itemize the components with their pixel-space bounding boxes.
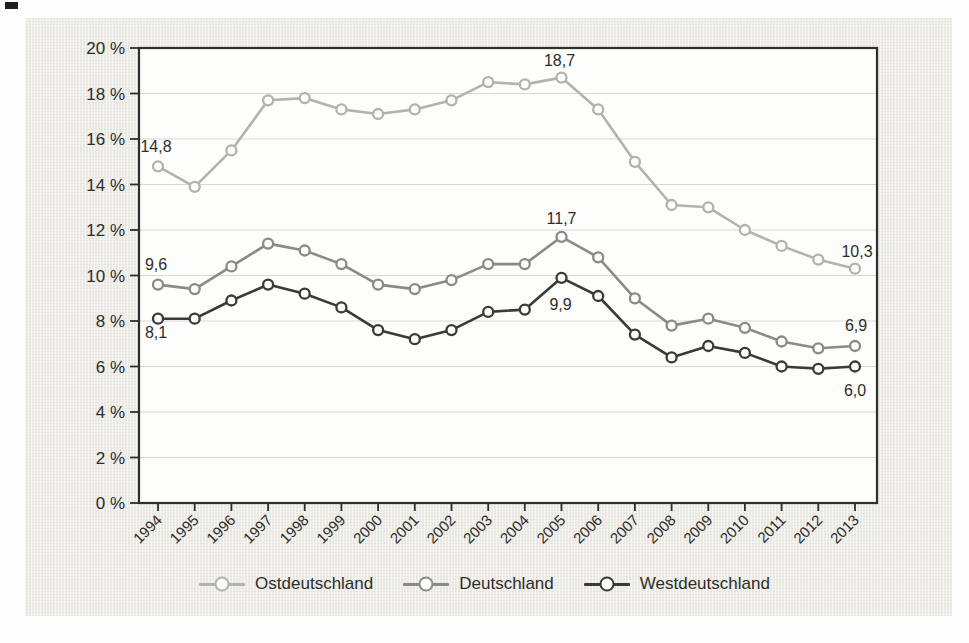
legend-circle-marker-icon (599, 577, 614, 592)
y-tick-label: 12 % (86, 221, 125, 240)
data-point-marker-icon (667, 321, 677, 331)
y-tick-label: 20 % (86, 39, 125, 58)
value-label: 8,1 (145, 324, 167, 341)
legend-label: Ostdeutschland (255, 574, 373, 594)
data-point-marker-icon (300, 93, 310, 103)
value-label: 9,6 (145, 256, 167, 273)
value-label: 11,7 (547, 210, 577, 227)
legend-line-icon (199, 583, 245, 586)
y-tick-label: 4 % (96, 403, 125, 422)
data-point-marker-icon (373, 325, 383, 335)
legend-circle-marker-icon (419, 577, 434, 592)
data-point-marker-icon (630, 293, 640, 303)
legend-line-icon (403, 583, 449, 586)
data-point-marker-icon (190, 284, 200, 294)
data-point-marker-icon (813, 343, 823, 353)
data-point-marker-icon (226, 261, 236, 271)
x-tick-label: 1995 (166, 511, 202, 547)
data-point-marker-icon (777, 241, 787, 251)
data-point-marker-icon (740, 225, 750, 235)
data-point-marker-icon (153, 280, 163, 290)
data-point-marker-icon (226, 145, 236, 155)
data-point-marker-icon (410, 334, 420, 344)
x-tick-label: 2001 (386, 511, 422, 547)
data-point-marker-icon (410, 284, 420, 294)
data-point-marker-icon (557, 273, 567, 283)
y-tick-label: 2 % (96, 449, 125, 468)
y-tick-label: 16 % (86, 130, 125, 149)
legend-label: Westdeutschland (640, 574, 770, 594)
value-label: 14,8 (140, 138, 171, 155)
scanned-figure-page: 0 %2 %4 %6 %8 %10 %12 %14 %16 %18 %20 %1… (0, 0, 969, 643)
data-point-marker-icon (557, 232, 567, 242)
legend-line-icon (584, 583, 630, 586)
x-tick-label: 2012 (790, 511, 826, 547)
data-point-marker-icon (373, 280, 383, 290)
x-tick-label: 2002 (423, 511, 459, 547)
data-point-marker-icon (630, 157, 640, 167)
y-tick-label: 14 % (86, 176, 125, 195)
y-tick-label: 0 % (96, 494, 125, 513)
legend-item-deutschland: Deutschland (403, 574, 554, 594)
data-point-marker-icon (740, 348, 750, 358)
data-point-marker-icon (447, 275, 457, 285)
data-point-marker-icon (520, 79, 530, 89)
data-point-marker-icon (447, 325, 457, 335)
data-point-marker-icon (263, 239, 273, 249)
value-label: 10,3 (841, 243, 872, 260)
legend-circle-marker-icon (215, 577, 230, 592)
x-tick-label: 2007 (606, 511, 642, 547)
x-tick-label: 2006 (570, 511, 606, 547)
data-point-marker-icon (593, 291, 603, 301)
data-point-marker-icon (593, 104, 603, 114)
x-tick-label: 2000 (350, 511, 386, 547)
data-point-marker-icon (777, 337, 787, 347)
data-point-marker-icon (520, 305, 530, 315)
data-point-marker-icon (263, 95, 273, 105)
x-tick-label: 2010 (716, 511, 752, 547)
x-axis: 1994199519961997199819992000200120022003… (130, 503, 863, 547)
value-label: 18,7 (544, 52, 575, 69)
data-point-marker-icon (190, 314, 200, 324)
x-tick-label: 2008 (643, 511, 679, 547)
data-point-marker-icon (153, 161, 163, 171)
chart-svg: 0 %2 %4 %6 %8 %10 %12 %14 %16 %18 %20 %1… (0, 0, 969, 643)
data-point-marker-icon (190, 182, 200, 192)
x-tick-label: 1998 (276, 511, 312, 547)
x-tick-label: 2003 (460, 511, 496, 547)
data-point-marker-icon (483, 307, 493, 317)
x-tick-label: 2005 (533, 511, 569, 547)
data-point-marker-icon (850, 362, 860, 372)
data-point-marker-icon (740, 323, 750, 333)
value-label: 6,9 (845, 317, 867, 334)
data-point-marker-icon (667, 352, 677, 362)
data-point-marker-icon (850, 341, 860, 351)
data-point-marker-icon (850, 264, 860, 274)
legend-label: Deutschland (459, 574, 554, 594)
data-point-marker-icon (630, 330, 640, 340)
legend-item-ostdeutschland: Ostdeutschland (199, 574, 373, 594)
value-label: 9,9 (549, 296, 571, 313)
y-tick-label: 18 % (86, 85, 125, 104)
value-label: 6,0 (844, 382, 866, 399)
data-point-marker-icon (153, 314, 163, 324)
x-tick-label: 1994 (130, 511, 166, 547)
data-point-marker-icon (373, 109, 383, 119)
data-point-marker-icon (593, 252, 603, 262)
data-point-marker-icon (447, 95, 457, 105)
y-axis: 0 %2 %4 %6 %8 %10 %12 %14 %16 %18 %20 % (86, 39, 139, 513)
data-point-marker-icon (300, 289, 310, 299)
data-point-marker-icon (667, 200, 677, 210)
data-point-marker-icon (336, 302, 346, 312)
data-point-marker-icon (483, 259, 493, 269)
data-point-marker-icon (226, 296, 236, 306)
data-point-marker-icon (777, 362, 787, 372)
data-point-marker-icon (263, 280, 273, 290)
data-point-marker-icon (703, 314, 713, 324)
y-tick-label: 8 % (96, 312, 125, 331)
x-tick-label: 2013 (827, 511, 863, 547)
x-tick-label: 1996 (203, 511, 239, 547)
data-point-marker-icon (520, 259, 530, 269)
data-point-marker-icon (813, 364, 823, 374)
data-point-marker-icon (300, 246, 310, 256)
